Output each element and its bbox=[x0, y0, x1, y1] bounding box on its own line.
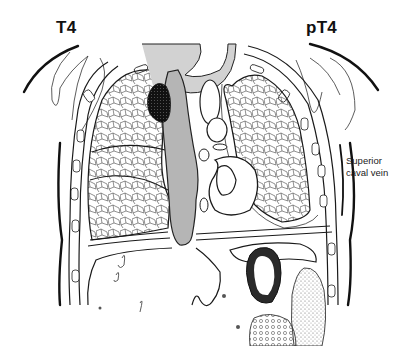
liver-detail-1 bbox=[118, 255, 125, 267]
superior-caval-vein-label: Superior caval vein bbox=[346, 155, 388, 179]
annotation-line-1: Superior bbox=[346, 155, 388, 167]
right-shoulder-arc bbox=[310, 44, 378, 90]
vessel-small-2 bbox=[199, 149, 209, 161]
heart bbox=[209, 157, 257, 215]
stage-label-t4: T4 bbox=[56, 18, 76, 38]
vessel-dot-2 bbox=[222, 294, 226, 298]
left-chest-wall bbox=[58, 143, 62, 305]
vessel-dot bbox=[99, 307, 102, 310]
anatomy-diagram: T4 pT4 Superior caval vein bbox=[0, 0, 407, 346]
annotation-line-2: caval vein bbox=[346, 167, 388, 179]
liver-detail-3 bbox=[140, 301, 142, 312]
liver-detail-2 bbox=[114, 272, 119, 281]
annotation-leader bbox=[340, 145, 343, 215]
vessel-small bbox=[213, 144, 227, 150]
abdominal-contour bbox=[192, 248, 220, 306]
stage-label-pt4: pT4 bbox=[306, 18, 337, 38]
pulmonary-artery bbox=[207, 118, 227, 142]
left-shoulder-arc bbox=[24, 46, 78, 92]
liver bbox=[88, 248, 172, 305]
bowel bbox=[250, 314, 297, 346]
spleen bbox=[291, 268, 325, 346]
vessel-dot-3 bbox=[236, 325, 240, 329]
vessel-small-3 bbox=[200, 198, 208, 212]
